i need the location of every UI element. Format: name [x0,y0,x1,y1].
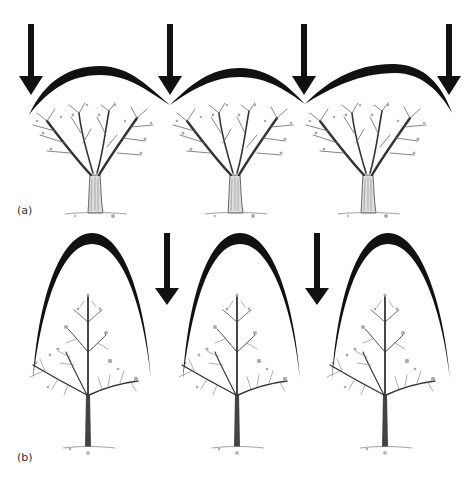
canopy-outline-a1 [29,66,170,115]
light-arrow-a2 [158,24,182,95]
canopy-outline-b1 [33,233,151,380]
light-arrow-b1 [155,233,179,305]
canopy-outline-a2 [170,68,305,105]
canopy-outline-b3 [332,233,450,380]
panel-b [30,233,450,455]
tree-a2 [173,103,293,218]
tree-b3 [327,293,435,455]
light-arrow-a1 [19,24,43,95]
tree-b1 [30,293,138,455]
tree-b2 [179,293,287,455]
figure-canvas [0,0,476,484]
light-arrow-a3 [292,24,316,95]
light-arrow-a4 [437,24,461,95]
panel-label-a: (a) [17,204,32,217]
light-arrow-b2 [305,233,329,305]
canopy-outline-b2 [183,233,300,380]
panel-a [19,24,461,218]
canopy-outline-a3 [305,64,452,113]
panel-label-b: (b) [17,451,33,464]
tree-a1 [33,103,153,218]
tree-a3 [306,103,426,218]
tree-canopy-figure: (a) (b) [0,0,476,484]
